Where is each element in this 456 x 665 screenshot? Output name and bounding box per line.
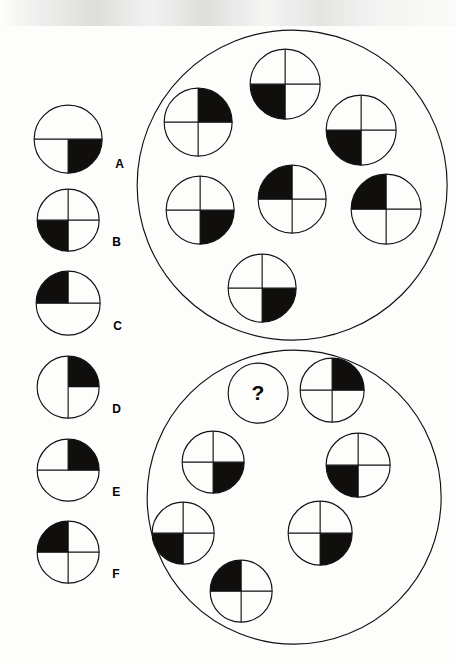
option-d[interactable]: D [36,355,121,419]
group-outline [147,350,441,644]
bottom-group-member-bottom [209,559,273,623]
top-group-member-center [257,164,327,234]
top-group-member-bottom [227,253,297,323]
bottom-group-item-bottom [209,559,273,623]
option-label-d: D [112,403,121,419]
top-group-member-mid-right [350,173,422,245]
option-circle-e [36,438,100,502]
top-group-item-top-center [249,48,321,120]
option-circle-f [36,520,100,584]
top-group-member-top-center [249,48,321,120]
top-group-item-bottom [227,253,297,323]
top-group-item-upper-left [163,87,233,157]
bottom-group-member-mid-left [181,430,245,494]
top-group-member-upper-left [163,87,233,157]
bottom-group-item-mid-right [325,432,391,498]
option-label-e: E [112,486,120,502]
option-circle-b [36,188,100,252]
option-circle-a [33,104,103,174]
bottom-group-member-lower-right [287,500,353,566]
bottom-group-outline-svg [146,349,442,645]
option-label-b: B [112,236,121,252]
option-label-a: A [115,158,124,174]
bottom-group-boundary [146,349,442,645]
option-b[interactable]: B [36,188,121,252]
bottom-group-member-lower-left [151,501,215,565]
bottom-group-item-lower-left [151,501,215,565]
bottom-group-member-top-right [299,357,365,423]
top-group-member-mid-left [165,175,235,245]
option-label-f: F [112,568,119,584]
option-a[interactable]: A [33,104,124,174]
option-circle-d [36,355,100,419]
option-e[interactable]: E [36,438,120,502]
top-group-item-mid-left [165,175,235,245]
question-mark-circle[interactable]: ? [227,362,289,424]
puzzle-canvas: ABCDEF ? [0,0,456,665]
top-group-item-mid-right [350,173,422,245]
bottom-group-item-top-right [299,357,365,423]
top-group-member-upper-right [325,94,397,166]
question-mark-glyph: ? [252,382,265,403]
bottom-group-item-lower-right [287,500,353,566]
bottom-group-item-mid-left [181,430,245,494]
option-c[interactable]: C [35,270,122,336]
option-label-c: C [113,320,122,336]
bottom-group-member-mid-right [325,432,391,498]
option-circle-c [35,270,101,336]
scan-noise-artifact [0,0,456,26]
top-group-item-center [257,164,327,234]
top-group-item-upper-right [325,94,397,166]
option-f[interactable]: F [36,520,120,584]
